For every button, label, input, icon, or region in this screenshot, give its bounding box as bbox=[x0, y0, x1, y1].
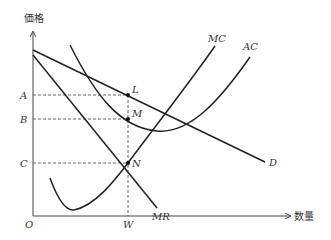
y-axis-label: 価格 bbox=[24, 12, 44, 24]
marginal-revenue-curve bbox=[33, 55, 157, 208]
point-L-label: L bbox=[131, 84, 139, 95]
price-label-A: A bbox=[19, 90, 27, 101]
marginal-revenue-label: MR bbox=[151, 211, 170, 222]
demand-label: D bbox=[268, 157, 277, 168]
price-label-C: C bbox=[20, 158, 28, 169]
point-N bbox=[126, 161, 130, 165]
point-M-label: M bbox=[131, 108, 143, 119]
demand-curve bbox=[33, 50, 265, 162]
quantity-label-W: W bbox=[123, 219, 134, 230]
x-axis-label: 数量 bbox=[294, 210, 314, 222]
average-cost-label: AC bbox=[242, 41, 258, 52]
marginal-cost-label: MC bbox=[207, 33, 226, 44]
point-N-label: N bbox=[131, 158, 142, 169]
origin-label: O bbox=[25, 219, 33, 230]
price-label-B: B bbox=[19, 114, 27, 125]
point-M bbox=[126, 117, 130, 121]
monopoly-cost-revenue-diagram: 価格 数量 O A B C W D MR AC MC L M N bbox=[0, 0, 331, 240]
point-L bbox=[126, 93, 130, 97]
average-cost-curve bbox=[70, 45, 250, 131]
